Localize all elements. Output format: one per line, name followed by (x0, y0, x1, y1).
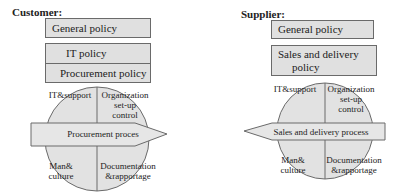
supplier-sales-delivery-policy-box: Sales and delivery policy (271, 45, 377, 76)
supplier-quadrant-documentation: Documentation &rapportage (325, 155, 383, 175)
customer-quadrant-documentation: Documentation &rapportage (100, 161, 156, 181)
supplier-quadrant-organization-line3: control (326, 104, 376, 114)
supplier-quadrant-man-culture: Man& culture (277, 155, 309, 175)
supplier-quadrant-doc-line1: Documentation (325, 155, 383, 165)
customer-procurement-policy-label: Procurement policy (60, 67, 146, 79)
customer-general-policy-label: General policy (52, 22, 117, 34)
customer-quadrant-organization-line1: Organization (100, 90, 150, 100)
supplier-heading: Supplier: (241, 8, 285, 20)
supplier-quadrant-organization-line2: set-up (326, 94, 376, 104)
supplier-arrow-label: Sales and delivery process (266, 127, 376, 137)
supplier-quadrant-organization-line1: Organization (326, 84, 376, 94)
supplier-quadrant-man-line1: Man& (277, 155, 309, 165)
customer-quadrant-organization: Organization set-up control (100, 90, 150, 120)
supplier-quadrant-man-line2: culture (277, 165, 309, 175)
customer-quadrant-doc-line1: Documentation (100, 161, 156, 171)
supplier-quadrant-organization: Organization set-up control (326, 84, 376, 114)
customer-arrow-label: Procurement proces (58, 129, 148, 139)
customer-quadrant-organization-line2: set-up (100, 100, 150, 110)
customer-procurement-policy-box: Procurement policy (45, 63, 151, 83)
supplier-general-policy-label: General policy (278, 23, 343, 35)
customer-quadrant-man-culture: Man& culture (46, 161, 76, 181)
customer-general-policy-box: General policy (45, 18, 151, 38)
customer-quadrant-man-line2: culture (46, 171, 76, 181)
supplier-sales-policy-line1: Sales and delivery (278, 48, 376, 61)
customer-quadrant-doc-line2: &rapportage (100, 171, 156, 181)
customer-quadrant-it-support: IT&support (48, 90, 92, 100)
supplier-sales-policy-line2: policy (278, 61, 376, 74)
supplier-quadrant-doc-line2: &rapportage (325, 165, 383, 175)
customer-it-policy-box: IT policy (45, 43, 151, 64)
customer-quadrant-man-line1: Man& (46, 161, 76, 171)
customer-quadrant-organization-line3: control (100, 110, 150, 120)
customer-it-policy-label: IT policy (66, 47, 106, 59)
supplier-general-policy-box: General policy (271, 20, 374, 39)
supplier-quadrant-it-support: IT&support (272, 84, 318, 94)
customer-heading: Customer: (12, 6, 62, 18)
